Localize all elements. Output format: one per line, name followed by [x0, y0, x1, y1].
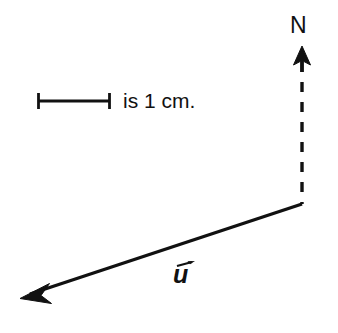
diagram-canvas	[0, 0, 338, 333]
north-direction-label: N	[290, 14, 307, 37]
vector-overbar-arrow-icon	[176, 258, 196, 270]
scale-bar-caption: is 1 cm.	[123, 90, 195, 111]
vector-u-arrowhead-icon	[20, 284, 52, 304]
vector-u-shaft	[30, 204, 302, 294]
vector-diagram-figure: N is 1 cm. u	[0, 0, 338, 333]
